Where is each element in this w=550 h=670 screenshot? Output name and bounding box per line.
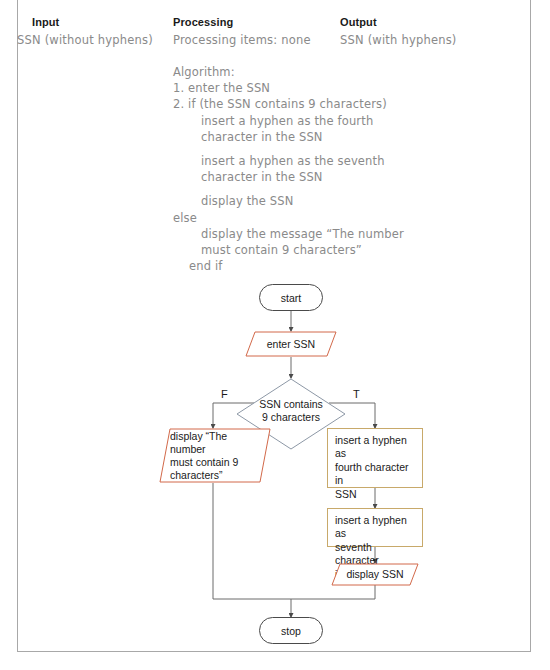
flow-node-insert-fourth-line1: insert a hyphen as (335, 434, 416, 461)
flow-node-display-ssn[interactable]: display SSN (331, 563, 419, 586)
flow-node-display-error-line2: must contain 9 (170, 456, 265, 469)
flow-node-decision-line2: 9 characters (236, 411, 346, 424)
flow-node-insert-fourth[interactable]: insert a hyphen as fourth character in S… (327, 428, 423, 488)
flow-node-display-ssn-label: display SSN (340, 568, 409, 581)
flow-edge-label-true: T (353, 388, 360, 400)
flow-node-insert-fourth-line3: SSN (335, 488, 357, 501)
page-canvas: Input SSN (without hyphens) Processing P… (0, 0, 550, 670)
flow-node-display-error-line3: characters” (170, 469, 265, 482)
flow-node-display-error[interactable]: display “The number must contain 9 chara… (159, 428, 271, 483)
flow-node-display-error-text: display “The number must contain 9 chara… (159, 430, 271, 482)
flow-node-insert-fourth-line2: fourth character in (335, 461, 416, 488)
flow-node-insert-seventh-line1: insert a hyphen as (335, 514, 416, 541)
flow-node-enter-ssn[interactable]: enter SSN (245, 331, 337, 357)
flow-node-display-error-line1: display “The number (170, 430, 265, 456)
flow-node-insert-seventh[interactable]: insert a hyphen as seventh character in … (327, 508, 423, 547)
flow-node-enter-ssn-label: enter SSN (261, 338, 321, 351)
flow-node-start[interactable]: start (259, 284, 323, 311)
flow-node-stop[interactable]: stop (259, 617, 323, 644)
flow-edge-label-false: F (221, 388, 228, 400)
flow-node-decision-line1: SSN contains (236, 398, 346, 411)
flow-node-stop-label: stop (281, 625, 301, 637)
flow-node-start-label: start (281, 292, 301, 304)
flow-node-decision-text: SSN contains 9 characters (236, 398, 346, 425)
